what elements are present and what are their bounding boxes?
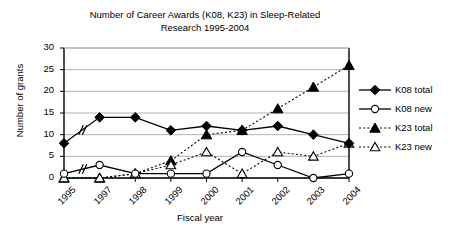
data-point (202, 147, 212, 155)
data-point (167, 170, 174, 177)
data-point (344, 60, 354, 69)
data-point (202, 121, 212, 131)
legend-label: K08 new (395, 103, 432, 114)
legend-item-k08-total[interactable]: K08 total (358, 80, 462, 99)
data-point (130, 113, 140, 123)
axis-break-marks (79, 125, 87, 173)
data-point (274, 161, 281, 168)
chart-legend: K08 totalK08 newK23 totalK23 new (358, 80, 462, 156)
data-point (132, 170, 139, 177)
data-point (371, 105, 378, 112)
legend-key-filled-triangle-icon (358, 121, 392, 135)
data-point (345, 170, 352, 177)
legend-key-filled-diamond-icon (358, 83, 392, 97)
data-point (310, 174, 317, 181)
legend-key-open-triangle-icon (358, 140, 392, 154)
legend-label: K23 total (395, 122, 433, 133)
series-k08-total (59, 113, 354, 149)
data-point (273, 104, 283, 113)
data-point (309, 130, 319, 140)
data-point (273, 147, 283, 155)
axis-ticks (60, 48, 349, 182)
data-point (273, 121, 283, 131)
legend-label: K23 new (395, 141, 432, 152)
legend-item-k23-new[interactable]: K23 new (358, 137, 462, 156)
data-point (95, 113, 105, 123)
data-point (370, 85, 380, 95)
chart-container: Number of Career Awards (K08, K23) in Sl… (0, 0, 463, 230)
legend-item-k08-new[interactable]: K08 new (358, 99, 462, 118)
legend-label: K08 total (395, 84, 433, 95)
data-point (60, 170, 67, 177)
legend-key-open-circle-icon (358, 102, 392, 116)
data-point (59, 139, 69, 149)
data-point (239, 148, 246, 155)
data-point (203, 170, 210, 177)
data-point (308, 82, 318, 91)
data-point (370, 123, 380, 132)
data-series-layer (59, 60, 354, 182)
legend-item-k23-total[interactable]: K23 total (358, 118, 462, 137)
data-point (96, 161, 103, 168)
gridlines (64, 48, 349, 178)
data-point (166, 126, 176, 136)
data-point (237, 169, 247, 177)
